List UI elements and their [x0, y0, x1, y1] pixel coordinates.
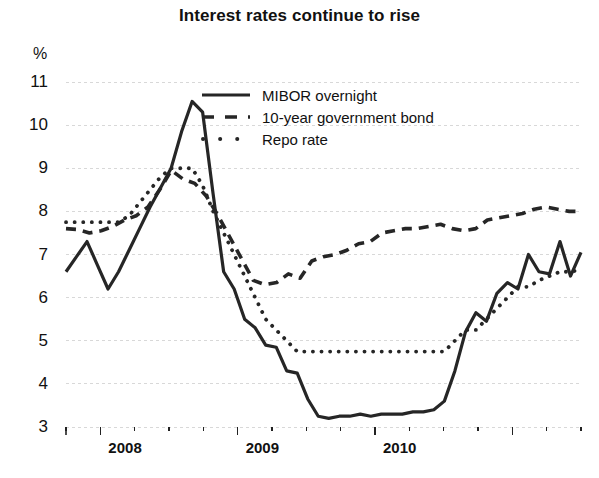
plot-area: [0, 0, 599, 478]
series-line-dotted: [66, 168, 581, 351]
y-axis-tick-7: 7: [14, 245, 48, 265]
x-axis-tick-2009: 2009: [227, 439, 297, 456]
y-axis-tick-3: 3: [14, 417, 48, 437]
legend-item-government-bond: 10-year government bond: [200, 106, 434, 128]
y-axis-tick-9: 9: [14, 158, 48, 178]
y-axis-tick-10: 10: [14, 115, 48, 135]
legend-label-government-bond: 10-year government bond: [262, 109, 434, 126]
chart-legend: MIBOR overnight 10-year government bond …: [200, 84, 434, 150]
x-axis-tick-2010: 2010: [365, 439, 435, 456]
legend-swatch-solid-icon: [200, 87, 252, 103]
y-axis-tick-11: 11: [14, 72, 48, 92]
legend-swatch-dashed-icon: [200, 109, 252, 125]
legend-swatch-dotted-icon: [200, 131, 252, 147]
y-axis-tick-6: 6: [14, 288, 48, 308]
legend-item-mibor-overnight: MIBOR overnight: [200, 84, 434, 106]
series-line-dashed: [66, 170, 581, 284]
y-axis-tick-5: 5: [14, 331, 48, 351]
legend-item-repo-rate: Repo rate: [200, 128, 434, 150]
legend-label-repo-rate: Repo rate: [262, 131, 328, 148]
chart-container: Interest rates continue to rise % 111098…: [0, 0, 599, 478]
y-axis-tick-8: 8: [14, 201, 48, 221]
legend-label-mibor-overnight: MIBOR overnight: [262, 87, 377, 104]
x-axis-tick-2008: 2008: [90, 439, 160, 456]
y-axis-tick-4: 4: [14, 374, 48, 394]
